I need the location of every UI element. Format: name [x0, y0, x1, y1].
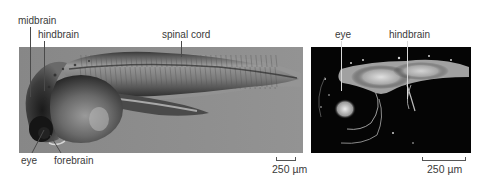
leader-line-hindbrain-right [407, 41, 408, 99]
scale-bar-left [276, 157, 296, 161]
label-eye-right: eye [335, 29, 351, 40]
scale-label-left: 250 µm [272, 163, 307, 175]
fluorescence-embryo-image [311, 47, 471, 153]
leader-line-eye-right [341, 41, 342, 91]
scale-label-right: 250 µm [427, 163, 462, 175]
scale-bar-right [422, 157, 466, 161]
figure: midbrain hindbrain spinal cord eye foreb… [0, 0, 489, 191]
label-eye-left: eye [21, 155, 37, 166]
label-forebrain: forebrain [54, 155, 93, 166]
label-hindbrain-right: hindbrain [389, 29, 430, 40]
fluorescence-illustration [311, 47, 471, 153]
